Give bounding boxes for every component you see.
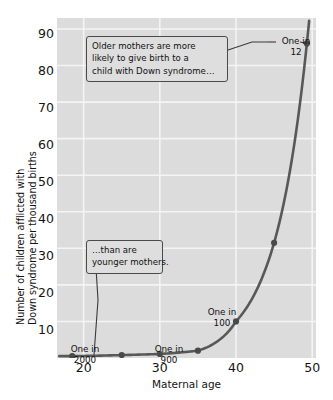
older-callout-line-3: child with Down syndrome… [92,65,222,77]
younger-mothers-callout: …than are younger mothers. [86,240,163,274]
one-in-900-annotation: One in 900 [143,344,195,365]
younger-callout-line-1: …than are [92,244,157,256]
one-in-12-annotation: One in 12 [271,36,321,57]
down-syndrome-maternal-age-chart: Number of children afflicted with Down s… [0,0,333,400]
one-in-2000-annotation: One in 2000 [57,344,113,365]
one-in-100-annotation: One in 100 [196,307,248,328]
one-in-900-line-1: One in [143,344,195,355]
one-in-100-line-1: One in [196,307,248,318]
older-callout-line-2: likely to give birth to a [92,52,222,64]
younger-callout-line-2: younger mothers. [92,256,157,268]
one-in-12-line-2: 12 [271,47,321,58]
one-in-2000-line-1: One in [57,344,113,355]
older-callout-line-1: Older mothers are more [92,40,222,52]
x-tick-50: 50 [292,362,332,375]
one-in-2000-line-2: 2000 [57,355,113,366]
one-in-12-line-1: One in [271,36,321,47]
one-in-900-line-2: 900 [143,355,195,366]
older-mothers-callout: Older mothers are more likely to give bi… [86,36,228,82]
one-in-100-line-2: 100 [196,318,248,329]
x-tick-40: 40 [216,362,256,375]
x-axis-title: Maternal age [57,378,316,390]
